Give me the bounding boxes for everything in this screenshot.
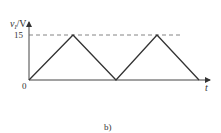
y-axis-label: vI/V: [10, 18, 27, 30]
figure-caption: b): [104, 122, 112, 132]
y-tick-15: 15: [14, 30, 24, 40]
origin-label: 0: [22, 81, 27, 91]
x-axis-label: t: [205, 82, 208, 93]
triangle-wave-diagram: vI/V 15 0 t b): [0, 0, 221, 133]
triangle-waveform: [29, 35, 199, 80]
